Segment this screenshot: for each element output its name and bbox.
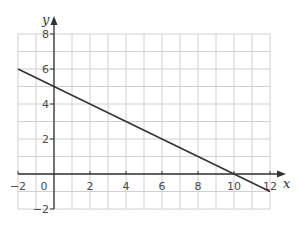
x-tick-label: −2 (10, 180, 26, 193)
y-tick-label: 2 (42, 133, 49, 146)
x-tick-label: 8 (195, 180, 202, 193)
y-tick-label: −2 (33, 203, 49, 216)
x-tick-label: 0 (41, 180, 48, 193)
y-axis-arrow-icon (51, 16, 58, 25)
y-tick-label: 6 (42, 63, 49, 76)
x-tick-label: 10 (227, 180, 241, 193)
y-tick-label: 8 (42, 28, 49, 41)
y-tick-label: 4 (42, 98, 49, 111)
x-tick-label: 6 (159, 180, 166, 193)
x-tick-label: 2 (87, 180, 94, 193)
x-axis-label: x (283, 176, 291, 191)
line-chart: xy−2024681012−22468 (0, 0, 301, 225)
y-axis-label: y (41, 12, 50, 27)
x-tick-label: 4 (123, 180, 130, 193)
